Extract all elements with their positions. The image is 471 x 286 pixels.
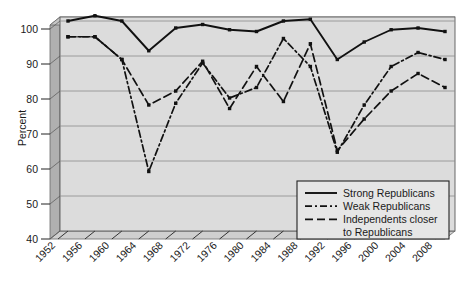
series-0-point-1996 [363, 40, 366, 43]
legend-label-3: to Republicans [343, 226, 412, 238]
series-1-point-2004 [416, 51, 419, 54]
series-2-point-1988 [309, 42, 312, 45]
series-0-point-1968 [174, 26, 177, 29]
series-0-point-1980 [255, 30, 258, 33]
y-tick-label-90: 90 [26, 58, 38, 70]
series-1-point-1976 [228, 96, 231, 99]
series-2-point-1960 [120, 58, 123, 61]
legend-label-0: Strong Republicans [343, 187, 435, 199]
series-0-point-1984 [282, 19, 285, 22]
series-1-point-1996 [363, 103, 366, 106]
series-0-point-1992 [336, 58, 339, 61]
series-2-point-2000 [389, 89, 392, 92]
series-2-point-1952 [66, 35, 69, 38]
series-2-point-1996 [363, 117, 366, 120]
series-2-point-1956 [93, 35, 96, 38]
series-1-point-1980 [255, 86, 258, 89]
y-tick-label-40: 40 [26, 233, 38, 245]
series-1-point-2008 [443, 58, 446, 61]
series-2-point-2004 [416, 72, 419, 75]
series-2-point-1984 [282, 100, 285, 103]
series-2-point-2008 [443, 86, 446, 89]
republican-party-loyalty-line-chart: 100908070605040 Percent 1952195619601964… [0, 0, 471, 286]
series-2-point-1972 [201, 60, 204, 63]
series-2-point-1964 [147, 103, 150, 106]
y-tick-label-80: 80 [26, 93, 38, 105]
y-tick-label-70: 70 [26, 128, 38, 140]
series-2-point-1976 [228, 107, 231, 110]
y-tick-label-50: 50 [26, 198, 38, 210]
series-1-point-1984 [282, 37, 285, 40]
y-axis-title: Percent [16, 110, 28, 146]
y-tick-label-60: 60 [26, 163, 38, 175]
series-0-point-1956 [93, 14, 96, 17]
series-1-point-2000 [389, 65, 392, 68]
y-tick-label-100: 100 [20, 23, 38, 35]
series-2-point-1992 [336, 149, 339, 152]
series-0-point-1988 [309, 18, 312, 21]
chart-legend: Strong RepublicansWeak RepublicansIndepe… [297, 181, 449, 239]
series-0-point-1964 [147, 49, 150, 52]
series-0-point-1952 [66, 19, 69, 22]
legend-label-1: Weak Republicans [343, 200, 430, 212]
series-2-point-1968 [174, 89, 177, 92]
series-1-point-1968 [174, 102, 177, 105]
chart-container: 100908070605040 Percent 1952195619601964… [0, 0, 471, 286]
series-0-point-2008 [443, 30, 446, 33]
series-0-point-1960 [120, 19, 123, 22]
series-1-point-1988 [309, 65, 312, 68]
series-0-point-1972 [201, 23, 204, 26]
series-0-point-2004 [416, 26, 419, 29]
series-0-point-2000 [389, 28, 392, 31]
panel-left-face [50, 17, 60, 239]
series-0-point-1976 [228, 28, 231, 31]
legend-label-2: Independents closer [343, 213, 438, 225]
series-1-point-1964 [147, 170, 150, 173]
series-2-point-1980 [255, 65, 258, 68]
